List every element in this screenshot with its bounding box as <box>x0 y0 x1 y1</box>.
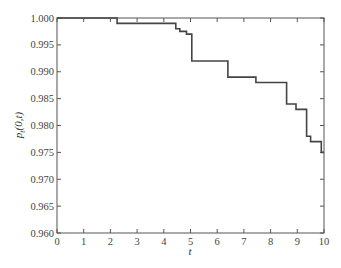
x-tick-label: 4 <box>161 236 167 247</box>
x-tick-label: 10 <box>319 236 330 247</box>
x-tick-label: 0 <box>54 236 59 247</box>
x-tick-label: 7 <box>241 236 246 247</box>
y-tick-label: 0.990 <box>30 66 54 77</box>
y-tick-label: 0.985 <box>30 93 54 104</box>
y-tick-label: 0.995 <box>30 39 54 50</box>
x-tick-label: 3 <box>134 236 139 247</box>
y-tick-label: 0.975 <box>30 147 54 158</box>
x-tick-label: 8 <box>268 236 273 247</box>
y-tick-label: 1.000 <box>30 13 54 24</box>
y-tick-label: 0.960 <box>30 228 54 239</box>
svg-text:pt(0,t): pt(0,t) <box>12 111 27 139</box>
x-tick-label: 9 <box>295 236 300 247</box>
x-tick-label: 1 <box>81 236 86 247</box>
step-line-chart: 012345678910 0.9600.9650.9700.9750.9800.… <box>0 0 341 268</box>
y-tick-label: 0.965 <box>30 201 54 212</box>
x-tick-label: 6 <box>215 236 220 247</box>
y-tick-label: 0.980 <box>30 120 54 131</box>
y-tick-label: 0.970 <box>30 174 54 185</box>
y-axis-label: pt(0,t) <box>12 111 27 139</box>
plot-area <box>57 18 324 233</box>
x-tick-label: 2 <box>108 236 113 247</box>
